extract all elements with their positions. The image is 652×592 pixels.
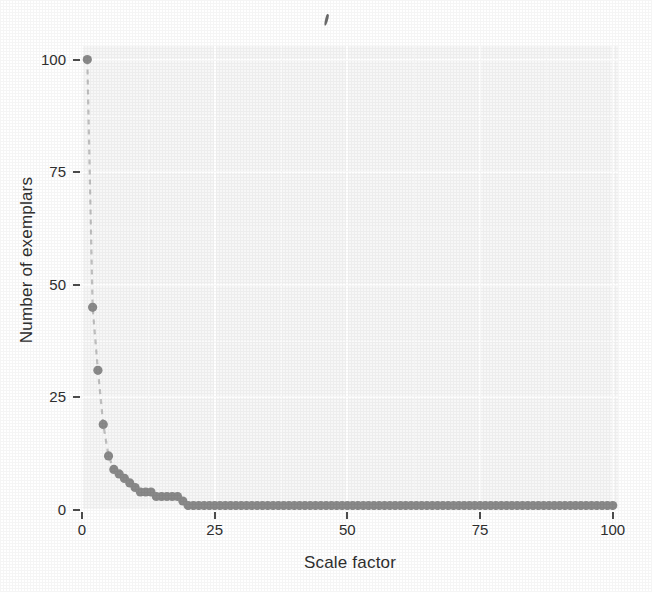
x-tick-mark-75 — [479, 512, 481, 519]
y-axis-title-text: Number of exemplars — [17, 177, 37, 343]
data-point — [93, 366, 102, 375]
data-point — [104, 451, 113, 460]
y-tick-label-0: 0 — [16, 501, 66, 518]
scan-artifact-comma-icon — [324, 14, 330, 26]
x-tick-label-100: 100 — [583, 521, 643, 538]
y-tick-mark-50 — [73, 284, 80, 286]
data-point — [83, 55, 92, 64]
x-tick-mark-50 — [346, 512, 348, 519]
x-tick-label-25: 25 — [185, 521, 245, 538]
chart-figure: Number of exemplars 02550751000255075100… — [0, 0, 652, 592]
y-tick-label-75: 75 — [16, 163, 66, 180]
y-tick-label-100: 100 — [16, 51, 66, 68]
series-svg — [82, 46, 618, 510]
data-series-layer — [82, 46, 618, 510]
series-connector-line — [87, 60, 612, 506]
x-tick-mark-25 — [214, 512, 216, 519]
y-tick-mark-0 — [73, 509, 80, 511]
y-axis-title: Number of exemplars — [14, 0, 40, 520]
y-tick-mark-75 — [73, 171, 80, 173]
y-tick-label-25: 25 — [16, 388, 66, 405]
x-tick-label-0: 0 — [52, 521, 112, 538]
x-tick-label-75: 75 — [450, 521, 510, 538]
data-point — [608, 501, 617, 510]
x-axis-title: Scale factor — [82, 553, 618, 573]
y-tick-mark-25 — [73, 396, 80, 398]
x-tick-mark-100 — [612, 512, 614, 519]
y-tick-label-50: 50 — [16, 276, 66, 293]
data-point — [88, 303, 97, 312]
x-tick-mark-0 — [81, 512, 83, 519]
y-tick-mark-100 — [73, 59, 80, 61]
data-point — [99, 420, 108, 429]
plot-panel — [82, 46, 618, 510]
x-tick-label-50: 50 — [317, 521, 377, 538]
